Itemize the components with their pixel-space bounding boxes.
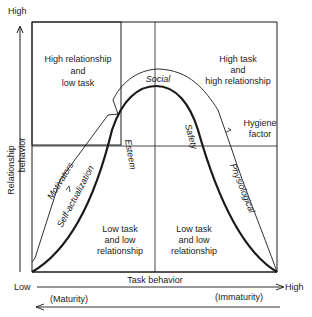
quadrant-tl-line3: low task [62,78,95,88]
y-axis-title-1: Relationship [6,145,16,195]
quadrant-tr-line1: High task [219,54,257,64]
label-hygiene-1: Hygiene [243,118,276,128]
quadrant-tr-line2: and [230,65,245,75]
x-axis-title: Task behavior [127,275,183,285]
x-axis-high-label: High [285,282,304,292]
y-axis-high-label: High [8,6,27,16]
quadrant-br-line2: and low [178,235,210,245]
y-axis-title-2: behavior [17,138,27,173]
diagram-labels: High Relationship behavior High relation… [0,0,312,317]
quadrant-bl-line2: and low [104,235,136,245]
quadrant-tl-line2: and [70,66,85,76]
quadrant-tr-line3: high relationship [205,76,271,86]
quadrant-br-line1: Low task [176,224,212,234]
immaturity-label: (Immaturity) [215,292,263,302]
label-hygiene-2: factor [249,129,272,139]
quadrant-bl-line3: relationship [97,246,143,256]
label-physiological: Physiological [228,162,257,215]
maturity-label: (Maturity) [50,294,88,304]
label-esteem: Esteem [123,139,138,171]
label-safety: Safety [183,123,199,151]
x-axis-low-label: Low [14,282,31,292]
label-social: Social [146,74,172,84]
quadrant-br-line3: relationship [171,246,217,256]
quadrant-tl-line1: High relationship [44,54,111,64]
quadrant-bl-line1: Low task [102,224,138,234]
